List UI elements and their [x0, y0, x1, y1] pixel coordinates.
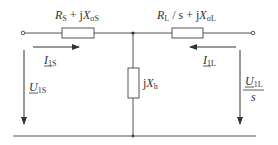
magnetizing-reactance-label: jXh [142, 76, 158, 91]
stator-impedance-box [62, 28, 94, 38]
stator-impedance-label: RS + jXσS [54, 8, 99, 23]
top-node [131, 31, 134, 34]
rotor-voltage-denominator: s [251, 90, 256, 104]
rotor-impedance-box [172, 28, 203, 38]
left-terminal [21, 31, 25, 35]
rotor-impedance-label: RL / s + jXσL [156, 8, 216, 23]
right-terminal [251, 31, 255, 35]
shunt-branch [128, 33, 139, 136]
magnetizing-impedance-box [128, 68, 139, 98]
circuit-diagram: RS + jXσS RL / s + jXσL jXh I1S I1L U1S … [0, 0, 278, 145]
